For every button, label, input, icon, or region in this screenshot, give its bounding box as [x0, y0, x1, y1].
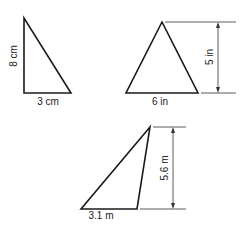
triangle-1-height-label: 8 cm [8, 45, 19, 67]
triangle-2-base-label: 6 in [152, 96, 168, 107]
triangle-1: 8 cm 3 cm [8, 18, 71, 107]
triangles-diagram: 8 cm 3 cm 5 in 6 in 5.6 m 3.1 m [0, 0, 249, 245]
triangle-3: 5.6 m 3.1 m [81, 127, 186, 221]
arrow-down-icon [216, 87, 220, 93]
triangle-2-height-label: 5 in [204, 49, 215, 65]
triangle-2-shape [126, 22, 198, 93]
triangle-2: 5 in 6 in [126, 22, 236, 107]
triangle-3-height-label: 5.6 m [159, 155, 170, 180]
arrow-up-icon [171, 127, 175, 133]
arrow-down-icon [171, 203, 175, 209]
triangle-1-base-label: 3 cm [37, 96, 59, 107]
arrow-up-icon [216, 22, 220, 28]
triangle-1-shape [24, 18, 71, 93]
triangle-3-base-label: 3.1 m [88, 210, 113, 221]
triangle-3-shape [81, 127, 150, 209]
